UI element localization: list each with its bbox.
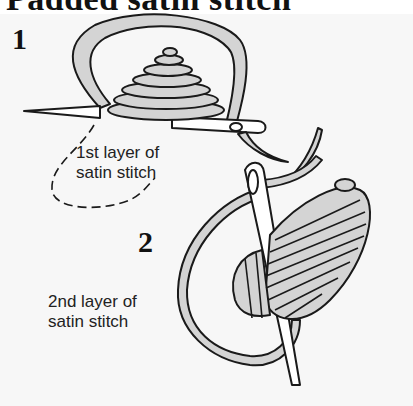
step-number-1: 1 — [12, 22, 27, 56]
step-1-caption: 1st layer of satin stitch — [76, 143, 159, 183]
step-number-2: 2 — [138, 225, 153, 259]
step-1-caption-line2: satin stitch — [76, 163, 159, 183]
stitch-illustration — [0, 0, 413, 406]
step-2-caption-line1: 2nd layer of — [48, 292, 137, 312]
step-2-caption: 2nd layer of satin stitch — [48, 292, 137, 332]
step-1-caption-line1: 1st layer of — [76, 143, 159, 163]
step-2-caption-line2: satin stitch — [48, 312, 137, 332]
satin-stitch-mound-1 — [108, 48, 224, 120]
needle-1 — [24, 106, 100, 118]
